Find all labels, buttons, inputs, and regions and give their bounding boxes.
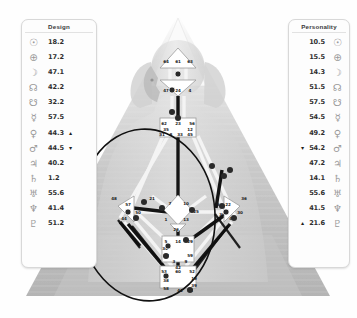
gate-line-value: 44.5 xyxy=(48,141,67,156)
gate-line-value: 14.1 xyxy=(306,171,325,186)
svg-text:24: 24 xyxy=(175,88,181,93)
activation-row[interactable]: ♆41.5 xyxy=(289,201,349,216)
gate-line-value: 21.6 xyxy=(306,216,325,231)
activation-row[interactable]: ☽14.3 xyxy=(289,65,349,80)
svg-text:56: 56 xyxy=(189,121,195,126)
bodygraph-canvas: 64 61 63 47 24 4 62 23 56 35 12 31 8 33 … xyxy=(0,0,357,318)
svg-text:9: 9 xyxy=(185,259,188,264)
gate-line-value: 10.5 xyxy=(306,35,325,50)
activation-row[interactable]: ♅55.6 xyxy=(22,186,96,201)
design-rows: ☉18.2⊕17.2☽47.1☊42.2☋32.2☿57.5♀44.3▲♂44.… xyxy=(22,34,96,233)
exalted-detriment-arrow-icon: ▼ xyxy=(67,141,74,156)
jupiter-icon: ♃ xyxy=(26,156,41,171)
uranus-icon: ♅ xyxy=(330,186,345,201)
gate-line-value: 47.1 xyxy=(48,65,67,80)
gate-line-value: 54.5 xyxy=(306,110,325,125)
neptune-icon: ♆ xyxy=(26,201,41,216)
activation-row[interactable]: ☊51.5 xyxy=(289,80,349,95)
svg-text:1: 1 xyxy=(165,217,168,222)
mercury-icon: ☿ xyxy=(330,110,345,125)
north-node-icon: ☊ xyxy=(330,80,345,95)
personality-rows: ☉10.5⊕15.5☽14.3☊51.5☋57.5☿54.5♀49.2♂54.2… xyxy=(289,34,349,233)
mars-icon: ♂ xyxy=(330,141,345,156)
uranus-icon: ♅ xyxy=(26,186,41,201)
gate-line-value: 57.5 xyxy=(48,110,67,125)
svg-text:57: 57 xyxy=(125,202,131,207)
gate-line-value: 57.5 xyxy=(306,95,325,110)
svg-text:33: 33 xyxy=(177,132,183,137)
svg-text:44: 44 xyxy=(121,216,127,221)
design-panel: Design ☉18.2⊕17.2☽47.1☊42.2☋32.2☿57.5♀44… xyxy=(21,19,97,268)
mars-icon: ♂ xyxy=(26,141,41,156)
svg-text:58: 58 xyxy=(163,286,169,291)
activation-row[interactable]: ♇51.2 xyxy=(22,216,96,231)
design-panel-title: Design xyxy=(25,20,93,33)
sun-icon: ☉ xyxy=(330,35,345,50)
svg-text:64: 64 xyxy=(163,59,169,64)
svg-text:30: 30 xyxy=(237,210,243,215)
svg-text:7: 7 xyxy=(169,201,172,206)
svg-text:60: 60 xyxy=(175,269,181,274)
jupiter-icon: ♃ xyxy=(330,156,345,171)
gate-line-value: 49.2 xyxy=(306,126,325,141)
svg-text:63: 63 xyxy=(187,59,193,64)
svg-text:47: 47 xyxy=(163,88,169,93)
gate-line-value: 55.6 xyxy=(306,186,325,201)
gate-line-value: 41.4 xyxy=(48,201,67,216)
personality-panel: Personality ☉10.5⊕15.5☽14.3☊51.5☋57.5☿54… xyxy=(288,19,350,268)
activation-row[interactable]: ♄1.2 xyxy=(22,171,96,186)
sun-icon: ☉ xyxy=(26,35,41,50)
activation-row[interactable]: ♆41.4 xyxy=(22,201,96,216)
moon-icon: ☽ xyxy=(26,65,41,80)
activation-row[interactable]: ♀49.2 xyxy=(289,126,349,141)
activation-row[interactable]: ⊕15.5 xyxy=(289,50,349,65)
activation-row[interactable]: ☿57.5 xyxy=(22,110,96,125)
activation-row[interactable]: ♂54.2▼ xyxy=(289,141,349,156)
gate-line-value: 1.2 xyxy=(48,171,67,186)
svg-text:36: 36 xyxy=(241,196,247,201)
activation-row[interactable]: ☉10.5 xyxy=(289,35,349,50)
svg-text:23: 23 xyxy=(175,121,181,126)
venus-icon: ♀ xyxy=(330,126,345,141)
gate-line-value: 14.3 xyxy=(306,65,325,80)
pluto-icon: ♇ xyxy=(26,216,41,231)
neptune-icon: ♆ xyxy=(330,201,345,216)
personality-panel-title: Personality xyxy=(292,20,346,33)
saturn-icon: ♄ xyxy=(330,171,345,186)
gate-line-value: 51.2 xyxy=(48,216,67,231)
svg-text:4: 4 xyxy=(189,88,192,93)
activation-row[interactable]: ♅55.6 xyxy=(289,186,349,201)
svg-text:22: 22 xyxy=(225,202,231,207)
exalted-detriment-arrow-icon: ▲ xyxy=(299,216,306,231)
gate-line-value: 18.2 xyxy=(48,35,67,50)
gate-line-value: 40.2 xyxy=(48,156,67,171)
gate-line-value: 42.2 xyxy=(48,80,67,95)
activation-row[interactable]: ☋32.2 xyxy=(22,95,96,110)
activation-row[interactable]: ♃40.2 xyxy=(22,156,96,171)
activation-row[interactable]: ☽47.1 xyxy=(22,65,96,80)
activation-row[interactable]: ♇21.6▲ xyxy=(289,216,349,231)
activation-row[interactable]: ♃47.2 xyxy=(289,156,349,171)
pluto-icon: ♇ xyxy=(330,216,345,231)
activation-row[interactable]: ☊42.2 xyxy=(22,80,96,95)
svg-text:10: 10 xyxy=(183,201,189,206)
gate-line-value: 41.5 xyxy=(306,201,325,216)
south-node-icon: ☋ xyxy=(330,95,345,110)
mercury-icon: ☿ xyxy=(26,110,41,125)
earth-icon: ⊕ xyxy=(26,50,41,65)
activation-row[interactable]: ☋57.5 xyxy=(289,95,349,110)
north-node-icon: ☊ xyxy=(26,80,41,95)
venus-icon: ♀ xyxy=(26,126,41,141)
activation-row[interactable]: ☿54.5 xyxy=(289,110,349,125)
activation-row[interactable]: ⊕17.2 xyxy=(22,50,96,65)
saturn-icon: ♄ xyxy=(26,171,41,186)
gate-line-value: 55.6 xyxy=(48,186,67,201)
activation-row[interactable]: ♄14.1 xyxy=(289,171,349,186)
activation-row[interactable]: ☉18.2 xyxy=(22,35,96,50)
gate-line-value: 17.2 xyxy=(48,50,67,65)
activation-row[interactable]: ♀44.3▲ xyxy=(22,126,96,141)
activation-row[interactable]: ♂44.5▼ xyxy=(22,141,96,156)
gate-line-value: 47.2 xyxy=(306,156,325,171)
exalted-detriment-arrow-icon: ▲ xyxy=(67,126,74,141)
svg-text:45: 45 xyxy=(187,132,193,137)
